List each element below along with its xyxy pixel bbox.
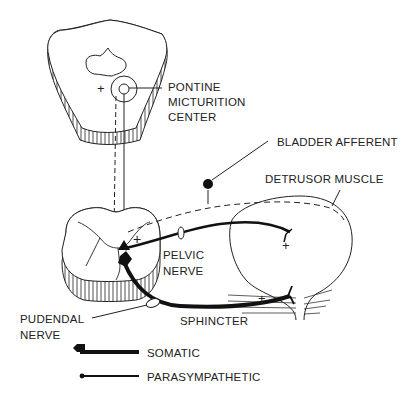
bladder-afferent-label: BLADDER AFFERENT (277, 135, 398, 149)
micturition-diagram: + + + + (0, 0, 418, 398)
pelvic-nerve-label-line1: PELVIC (163, 248, 204, 262)
sphincter-label: SPHINCTER (180, 314, 248, 328)
spinal-cord (62, 208, 160, 302)
pelvic-nerve-label-line2: NERVE (163, 264, 203, 278)
pmc-label-line1: PONTINE (168, 80, 221, 94)
pons (48, 20, 168, 145)
diagram-drawing: + + + + (0, 0, 418, 398)
legend (73, 344, 139, 378)
pudendal-nerve-label-line2: NERVE (20, 328, 60, 342)
legend-somatic-label: SOMATIC (147, 346, 200, 360)
pudendal-nerve-marker (145, 297, 161, 309)
pmc-label-line3: CENTER (168, 110, 216, 124)
pons-plus-sign: + (97, 81, 105, 96)
detrusor-muscle-label: DETRUSOR MUSCLE (265, 172, 384, 186)
bladder-afferent-path (128, 202, 344, 232)
pelvic-nerve-marker (178, 227, 184, 239)
pudendal-nerve-label-line1: PUDENDAL (20, 312, 84, 326)
legend-parasympathetic-label: PARASYMPATHETIC (147, 370, 261, 384)
afferent-ganglion (203, 179, 213, 189)
pmc-label-line2: MICTURITION (168, 95, 246, 109)
detrusor-plus-sign: + (282, 238, 290, 253)
sphincter-plus-sign: + (258, 291, 266, 306)
